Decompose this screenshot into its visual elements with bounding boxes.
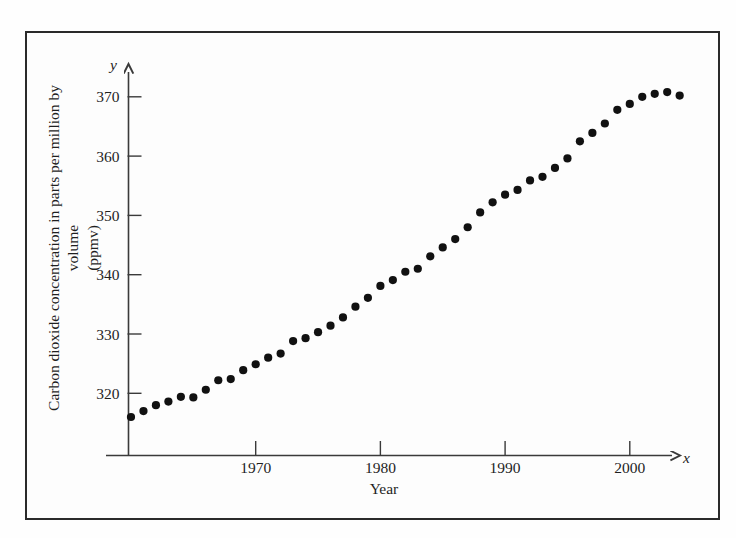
data-point <box>326 322 334 330</box>
data-point <box>513 186 521 194</box>
data-point <box>563 154 571 162</box>
data-point <box>289 337 297 345</box>
x-tick-label: 1980 <box>365 459 396 476</box>
data-point <box>239 366 247 374</box>
data-point <box>401 268 409 276</box>
data-point <box>601 119 609 127</box>
x-tick-label: 1990 <box>490 459 521 476</box>
data-point <box>389 276 397 284</box>
scatter-plot: y x 320330340350360370 1970198019902000 … <box>0 0 736 538</box>
y-tick-label: 330 <box>96 326 120 343</box>
data-point <box>202 386 210 394</box>
data-point <box>613 106 621 114</box>
data-point <box>314 328 322 336</box>
data-point <box>663 88 671 96</box>
data-point <box>227 375 235 383</box>
data-point <box>451 235 459 243</box>
data-points <box>127 88 684 421</box>
x-tick-label: 1970 <box>240 459 271 476</box>
data-point <box>538 173 546 181</box>
y-tick-label: 320 <box>96 385 120 402</box>
data-point <box>189 393 197 401</box>
x-axis-title: Year <box>370 480 399 497</box>
y-tick-label: 350 <box>96 207 120 224</box>
x-axis-ticks: 1970198019902000 <box>240 441 645 476</box>
data-point <box>426 252 434 260</box>
data-point <box>301 334 309 342</box>
x-axis-variable-label: x <box>682 449 690 466</box>
data-point <box>489 198 497 206</box>
data-point <box>526 176 534 184</box>
x-tick-label: 2000 <box>614 459 645 476</box>
data-point <box>351 303 359 311</box>
data-point <box>376 282 384 290</box>
data-point <box>139 407 147 415</box>
data-point <box>476 208 484 216</box>
y-axis-variable-label: y <box>108 56 117 73</box>
y-tick-label: 360 <box>96 148 120 165</box>
y-axis-ticks: 320330340350360370 <box>96 88 141 402</box>
data-point <box>551 164 559 172</box>
data-point <box>164 398 172 406</box>
data-point <box>177 393 185 401</box>
data-point <box>264 354 272 362</box>
y-tick-label: 370 <box>96 88 120 105</box>
figure-container: Carbon dioxide concentration in parts pe… <box>0 0 736 538</box>
data-point <box>676 92 684 100</box>
data-point <box>638 93 646 101</box>
data-point <box>152 401 160 409</box>
data-point <box>214 376 222 384</box>
data-point <box>277 349 285 357</box>
data-point <box>252 360 260 368</box>
data-point <box>588 129 596 137</box>
data-point <box>439 243 447 251</box>
data-point <box>339 313 347 321</box>
y-tick-label: 340 <box>96 266 120 283</box>
data-point <box>626 100 634 108</box>
data-point <box>501 191 509 199</box>
data-point <box>127 413 135 421</box>
data-point <box>651 90 659 98</box>
data-point <box>414 265 422 273</box>
data-point <box>464 223 472 231</box>
data-point <box>364 294 372 302</box>
data-point <box>576 137 584 145</box>
